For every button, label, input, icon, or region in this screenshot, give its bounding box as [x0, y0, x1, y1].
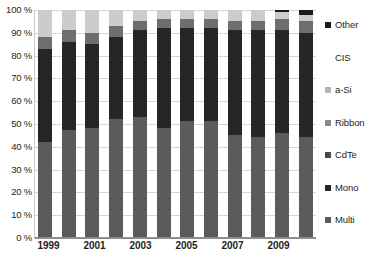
- bar-segment-cis: [204, 10, 218, 19]
- bar-segment-a-si: [38, 37, 52, 48]
- bar-2004: [157, 10, 171, 237]
- bar-segment-mono: [85, 44, 99, 128]
- legend-swatch-icon: [325, 55, 331, 61]
- bar-1999: [38, 10, 52, 237]
- bar-segment-a-si: [109, 26, 123, 37]
- bar-segment-cis: [133, 10, 147, 21]
- legend-item-ribbon[interactable]: Ribbon: [325, 118, 365, 128]
- bar-segment-mono: [109, 37, 123, 119]
- bar-2009: [275, 10, 289, 237]
- bar-segment-mono: [62, 42, 76, 131]
- legend-item-label: Mono: [335, 183, 358, 193]
- legend-swatch-icon: [325, 217, 331, 223]
- y-axis-tick-label: 20 %: [0, 187, 32, 197]
- bar-2007: [228, 10, 242, 237]
- bar-segment-multi: [85, 128, 99, 237]
- legend-item-label: Multi: [335, 215, 355, 225]
- bar-segment-mono: [133, 30, 147, 116]
- bar-segment-multi: [157, 128, 171, 237]
- x-axis-tick-label: 1999: [37, 240, 59, 252]
- x-axis-tick-label: 2005: [175, 240, 197, 252]
- x-axis: 199920012003200520072009: [34, 240, 316, 262]
- y-axis-tick-label: 70 %: [0, 73, 32, 83]
- x-axis-tick-label: 2009: [267, 240, 289, 252]
- bar-2008: [251, 10, 265, 237]
- legend-item-label: Ribbon: [335, 118, 365, 128]
- bar-segment-a-si: [85, 33, 99, 44]
- y-axis-tick-label: 40 %: [0, 142, 32, 152]
- legend-item-cis[interactable]: CIS: [325, 53, 351, 63]
- bar-2005: [180, 10, 194, 237]
- bar-2000: [62, 10, 76, 237]
- legend-swatch-icon: [325, 185, 331, 191]
- bar-segment-a-si: [275, 19, 289, 30]
- bar-2006: [204, 10, 218, 237]
- legend-item-other[interactable]: Other: [325, 20, 358, 30]
- bar-segment-multi: [133, 117, 147, 237]
- legend-item-cdte[interactable]: CdTe: [325, 150, 357, 160]
- bar-segment-a-si: [157, 19, 171, 28]
- bar-segment-multi: [251, 137, 265, 237]
- bar-segment-multi: [299, 137, 313, 237]
- bar-segment-a-si: [228, 21, 242, 30]
- chart-legend: OtherCISa-SiRibbonCdTeMonoMulti: [325, 10, 370, 240]
- bar-2002: [109, 10, 123, 237]
- bar-segment-mono: [204, 28, 218, 121]
- bar-segment-multi: [204, 121, 218, 237]
- bars-container: [35, 10, 316, 237]
- bar-segment-cis: [275, 12, 289, 19]
- bar-segment-cis: [228, 10, 242, 21]
- legend-item-label: CdTe: [335, 150, 357, 160]
- bar-segment-mono: [251, 30, 265, 137]
- y-axis-tick-label: 80 %: [0, 51, 32, 61]
- y-axis-tick-label: 30 %: [0, 165, 32, 175]
- legend-swatch-icon: [325, 120, 331, 126]
- bar-segment-a-si: [133, 21, 147, 30]
- legend-swatch-icon: [325, 152, 331, 158]
- bar-segment-mono: [275, 30, 289, 132]
- bar-segment-cis: [85, 10, 99, 33]
- y-axis: 0 %10 %20 %30 %40 %50 %60 %70 %80 %90 %1…: [0, 0, 34, 267]
- y-axis-tick-label: 10 %: [0, 210, 32, 220]
- bar-segment-cis: [251, 10, 265, 21]
- bar-segment-a-si: [62, 30, 76, 41]
- bar-segment-multi: [62, 130, 76, 237]
- legend-item-multi[interactable]: Multi: [325, 215, 355, 225]
- bar-segment-cis: [109, 10, 123, 26]
- legend-item-mono[interactable]: Mono: [325, 183, 358, 193]
- bar-2001: [85, 10, 99, 237]
- bar-segment-multi: [228, 135, 242, 237]
- y-axis-tick-label: 90 %: [0, 28, 32, 38]
- bar-segment-cis: [299, 15, 313, 22]
- bar-segment-mono: [157, 28, 171, 128]
- plot-area: [34, 10, 316, 238]
- bar-segment-cis: [180, 10, 194, 19]
- bar-segment-a-si: [251, 21, 265, 30]
- bar-segment-a-si: [204, 19, 218, 28]
- gridline: [35, 238, 316, 239]
- bar-segment-mono: [180, 28, 194, 121]
- bar-segment-mono: [38, 49, 52, 142]
- bar-segment-cis: [157, 10, 171, 19]
- y-axis-tick-label: 50 %: [0, 119, 32, 129]
- bar-2003: [133, 10, 147, 237]
- bar-segment-multi: [38, 142, 52, 237]
- legend-item-a-si[interactable]: a-Si: [325, 85, 352, 95]
- y-axis-tick-label: 60 %: [0, 96, 32, 106]
- legend-item-label: a-Si: [335, 85, 352, 95]
- bar-segment-multi: [180, 121, 194, 237]
- bar-segment-mono: [299, 33, 313, 137]
- y-axis-tick-label: 100 %: [0, 5, 32, 15]
- bar-2010: [299, 10, 313, 237]
- stacked-bar-chart: 0 %10 %20 %30 %40 %50 %60 %70 %80 %90 %1…: [0, 0, 370, 267]
- bar-segment-cis: [38, 10, 52, 37]
- bar-segment-a-si: [180, 19, 194, 28]
- bar-segment-multi: [275, 133, 289, 237]
- bar-segment-multi: [109, 119, 123, 237]
- legend-swatch-icon: [325, 87, 331, 93]
- x-axis-tick-label: 2007: [221, 240, 243, 252]
- legend-item-label: CIS: [335, 53, 351, 63]
- bar-segment-a-si: [299, 21, 313, 32]
- x-axis-tick-label: 2001: [83, 240, 105, 252]
- x-axis-tick-label: 2003: [129, 240, 151, 252]
